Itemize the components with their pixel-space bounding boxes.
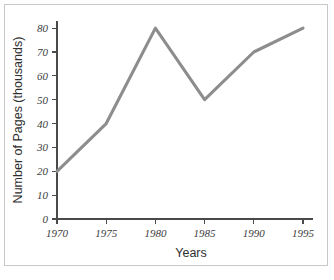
- x-axis-title: Years: [175, 246, 207, 260]
- y-tick-label: 10: [37, 189, 49, 201]
- x-tick-label: 1975: [95, 227, 118, 239]
- x-axis-ticks: [57, 219, 303, 224]
- y-tick-label: 20: [37, 165, 49, 177]
- data-series-line: [57, 28, 303, 171]
- y-tick-label: 50: [37, 94, 49, 106]
- y-tick-label: 30: [36, 141, 49, 153]
- y-tick-label: 80: [37, 22, 49, 34]
- x-tick-label: 1970: [46, 227, 69, 239]
- x-tick-label: 1995: [292, 227, 315, 239]
- y-tick-label: 60: [37, 70, 49, 82]
- x-tick-label: 1990: [243, 227, 266, 239]
- y-tick-label: 40: [37, 118, 49, 130]
- y-axis-tick-labels: 01020304050607080: [36, 22, 49, 225]
- x-tick-label: 1980: [144, 227, 167, 239]
- line-chart: 01020304050607080 1970197519801985199019…: [5, 5, 327, 265]
- chart-figure-frame: 01020304050607080 1970197519801985199019…: [4, 4, 328, 266]
- x-tick-label: 1985: [194, 227, 217, 239]
- x-axis-tick-labels: 197019751980198519901995: [46, 227, 315, 239]
- y-tick-label: 0: [43, 213, 49, 225]
- y-axis: 01020304050607080: [36, 21, 57, 225]
- x-axis: 197019751980198519901995: [46, 219, 315, 239]
- y-tick-label: 70: [37, 46, 49, 58]
- y-axis-title: Number of Pages (thousands): [11, 37, 25, 204]
- y-axis-ticks: [52, 28, 57, 219]
